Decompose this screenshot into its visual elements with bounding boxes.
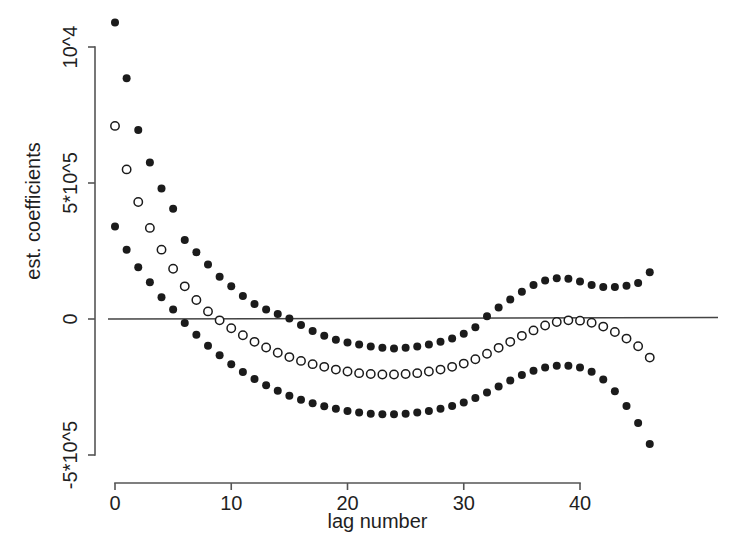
data-point-open xyxy=(239,331,247,339)
figure-container: 01020304010^45*10^50-5*10^5lag numberest… xyxy=(0,0,744,551)
data-point-open xyxy=(599,322,607,330)
data-point-filled xyxy=(611,283,619,291)
data-point-open xyxy=(262,343,270,351)
data-point-open xyxy=(553,318,561,326)
data-point-open xyxy=(401,370,409,378)
data-point-open xyxy=(390,370,398,378)
x-tick-label-3: 30 xyxy=(453,492,475,514)
data-point-filled xyxy=(344,407,352,415)
data-point-filled xyxy=(646,440,654,448)
data-point-filled xyxy=(448,402,456,410)
data-point-filled xyxy=(495,382,503,390)
data-point-filled xyxy=(320,332,328,340)
data-point-filled xyxy=(158,293,166,301)
data-point-filled xyxy=(495,304,503,312)
data-point-open xyxy=(471,355,479,363)
data-point-filled xyxy=(553,274,561,282)
data-point-filled xyxy=(134,263,142,271)
data-point-filled xyxy=(204,342,212,350)
data-point-filled xyxy=(541,276,549,284)
data-point-filled xyxy=(553,362,561,370)
data-point-filled xyxy=(158,184,166,192)
data-point-filled xyxy=(239,368,247,376)
data-point-filled xyxy=(344,338,352,346)
data-point-open xyxy=(367,370,375,378)
data-point-filled xyxy=(204,261,212,269)
data-point-open xyxy=(506,338,514,346)
data-point-filled xyxy=(448,335,456,343)
data-point-filled xyxy=(309,327,317,335)
data-point-filled xyxy=(390,344,398,352)
scatter-plot: 01020304010^45*10^50-5*10^5lag numberest… xyxy=(0,0,744,551)
data-point-open xyxy=(320,363,328,371)
data-point-filled xyxy=(413,342,421,350)
axis-layer xyxy=(88,47,580,490)
data-point-filled xyxy=(460,399,468,407)
data-point-filled xyxy=(355,341,363,349)
data-point-filled xyxy=(192,331,200,339)
data-point-filled xyxy=(634,279,642,287)
data-point-open xyxy=(576,316,584,324)
data-point-filled xyxy=(134,126,142,134)
axis-labels-layer: 01020304010^45*10^50-5*10^5lag numberest… xyxy=(22,26,591,532)
data-point-filled xyxy=(297,321,305,329)
zero-line-layer xyxy=(108,318,718,320)
data-point-filled xyxy=(413,409,421,417)
data-point-filled xyxy=(285,392,293,400)
x-tick-label-1: 10 xyxy=(220,492,242,514)
data-point-filled xyxy=(367,410,375,418)
data-point-filled xyxy=(402,410,410,418)
data-point-open xyxy=(378,370,386,378)
data-point-open xyxy=(134,198,142,206)
y-tick-label-3: -5*10^5 xyxy=(59,421,81,489)
data-point-filled xyxy=(181,236,189,244)
data-point-open xyxy=(355,369,363,377)
data-point-filled xyxy=(576,277,584,285)
data-point-open xyxy=(250,338,258,346)
data-point-open xyxy=(157,245,165,253)
data-point-open xyxy=(343,367,351,375)
data-point-open xyxy=(192,296,200,304)
data-point-filled xyxy=(216,273,224,281)
data-point-filled xyxy=(146,159,154,167)
data-point-filled xyxy=(646,268,654,276)
data-point-filled xyxy=(437,405,445,413)
data-point-filled xyxy=(320,402,328,410)
data-point-filled xyxy=(181,319,189,327)
x-tick-label-0: 0 xyxy=(109,492,120,514)
data-point-filled xyxy=(588,281,596,289)
y-tick-label-2: 0 xyxy=(59,313,81,324)
x-tick-label-4: 40 xyxy=(569,492,591,514)
data-point-filled xyxy=(367,342,375,350)
data-point-open xyxy=(215,316,223,324)
data-point-open xyxy=(169,264,177,272)
data-point-open xyxy=(285,353,293,361)
data-point-filled xyxy=(530,281,538,289)
data-point-filled xyxy=(623,402,631,410)
data-point-open xyxy=(181,282,189,290)
data-point-filled xyxy=(274,310,282,318)
y-tick-label-1: 5*10^5 xyxy=(59,152,81,214)
data-point-filled xyxy=(564,275,572,283)
data-point-filled xyxy=(146,278,154,286)
data-point-filled xyxy=(169,205,177,213)
data-point-open xyxy=(297,357,305,365)
data-point-filled xyxy=(355,409,363,417)
data-point-open xyxy=(448,363,456,371)
data-point-filled xyxy=(111,19,119,27)
data-point-filled xyxy=(227,282,235,290)
data-point-filled xyxy=(378,344,386,352)
data-point-filled xyxy=(425,341,433,349)
series-3 xyxy=(111,223,654,449)
data-point-filled xyxy=(471,394,479,402)
data-point-filled xyxy=(506,376,514,384)
data-point-filled xyxy=(297,396,305,404)
x-axis-title: lag number xyxy=(327,510,427,532)
data-point-filled xyxy=(460,330,468,338)
data-point-open xyxy=(146,224,154,232)
data-point-open xyxy=(332,365,340,373)
data-point-open xyxy=(227,324,235,332)
data-point-filled xyxy=(471,323,479,331)
data-point-open xyxy=(274,349,282,357)
data-point-filled xyxy=(611,387,619,395)
